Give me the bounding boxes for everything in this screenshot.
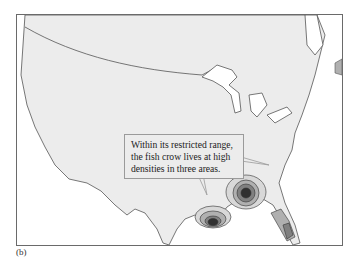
panel-label: (b)	[16, 247, 27, 257]
us-map	[17, 15, 342, 245]
density-area-georgia	[226, 175, 266, 209]
nova-scotia	[335, 59, 342, 75]
callout-line-2: the fish crow lives at high	[131, 151, 237, 163]
density-area-louisiana	[195, 206, 231, 228]
callout-box: Within its restricted range, the fish cr…	[124, 134, 244, 179]
callout-line-1: Within its restricted range,	[131, 139, 237, 151]
callout-line-3: densities in three areas.	[131, 163, 237, 175]
map-frame: Within its restricted range, the fish cr…	[16, 14, 343, 246]
